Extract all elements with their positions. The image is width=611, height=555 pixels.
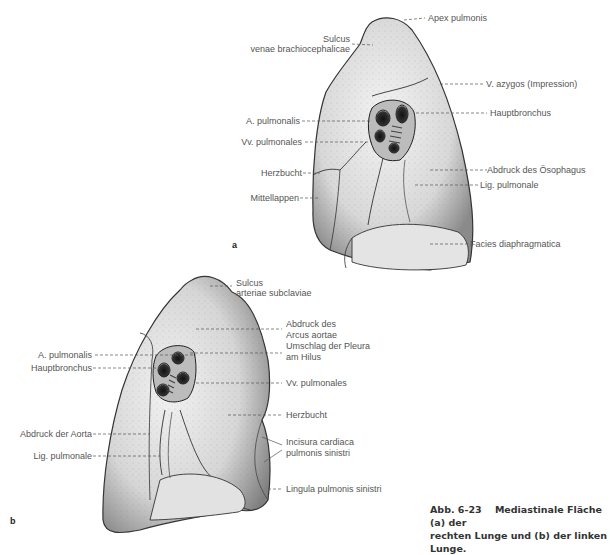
label-lig-pulmonale-a: Lig. pulmonale — [480, 180, 539, 191]
left-lung-drawing — [103, 276, 270, 532]
label-umschlag-pleura-2: am Hilus — [286, 352, 321, 363]
figure-number: Abb. 6-23 — [430, 504, 482, 515]
label-hauptbronchus-b: Hauptbronchus — [0, 363, 92, 374]
label-hauptbronchus-a: Hauptbronchus — [490, 108, 551, 119]
label-vv-pulmonales-b: Vv. pulmonales — [286, 378, 347, 389]
label-incisura-cardiaca-1: Incisura cardiaca — [286, 437, 354, 448]
panel-letter-a: a — [232, 240, 237, 250]
label-abdruck-arcus-2: Arcus aortae — [286, 330, 337, 341]
label-abdruck-oesophagus: Abdruck des Ösophagus — [487, 165, 586, 176]
label-umschlag-pleura-1: Umschlag der Pleura — [286, 341, 370, 352]
label-a-pulmonalis-b: A. pulmonalis — [0, 350, 92, 361]
label-herzbucht-a: Herzbucht — [220, 168, 302, 179]
label-apex-pulmonis: Apex pulmonis — [428, 13, 487, 24]
label-herzbucht-b: Herzbucht — [286, 410, 327, 421]
label-incisura-cardiaca-2: pulmonis sinistri — [286, 448, 350, 459]
label-vv-pulmonales-a: Vv. pulmonales — [220, 137, 302, 148]
label-lingula: Lingula pulmonis sinistri — [286, 484, 382, 495]
label-v-azygos: V. azygos (Impression) — [486, 79, 577, 90]
label-sulcus-brachiocephalicae-2: venae brachiocephalicae — [238, 44, 350, 55]
caption-line-2: rechten Lunge und (b) der linken Lunge. — [430, 529, 611, 555]
label-abdruck-arcus-1: Abdruck des — [286, 319, 336, 330]
label-facies-diaphragmatica: Facies diaphragmatica — [470, 239, 561, 250]
label-mittellappen: Mittellappen — [220, 193, 299, 204]
label-abdruck-aorta: Abdruck der Aorta — [0, 429, 92, 440]
label-a-pulmonalis-a: A. pulmonalis — [220, 116, 300, 127]
label-lig-pulmonale-b: Lig. pulmonale — [0, 451, 92, 462]
label-sulcus-subclaviae-2: arteriae subclaviae — [236, 288, 312, 299]
figure-caption: Abb. 6-23 Mediastinale Fläche (a) der re… — [430, 503, 611, 555]
right-lung-drawing — [313, 18, 473, 270]
panel-letter-b: b — [10, 516, 16, 526]
